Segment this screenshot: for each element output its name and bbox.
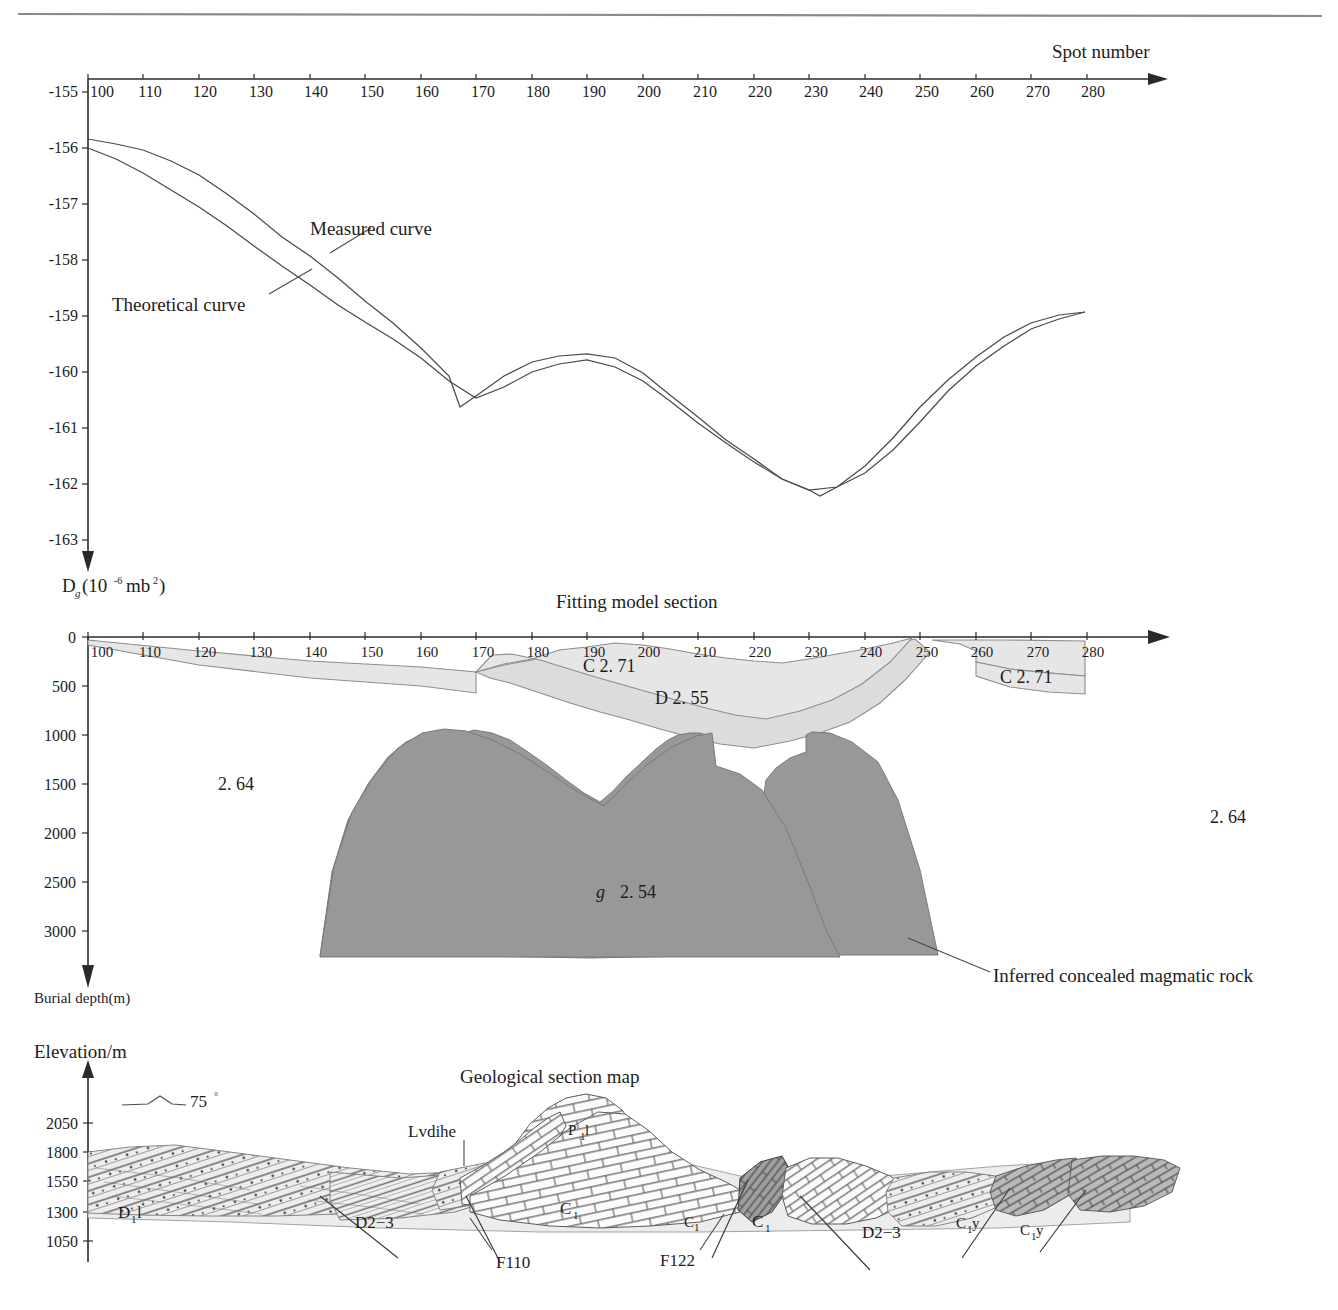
- chart1-xtick-5: 150: [360, 83, 384, 100]
- chart2-title: Fitting model section: [556, 591, 718, 612]
- chart1-xtick-13: 230: [804, 83, 828, 100]
- page-top-rule-group: [18, 0, 1322, 16]
- chart1-ytick-4: -159: [49, 307, 78, 324]
- chart1-ylabel-sub: g: [75, 587, 81, 599]
- chart1-y-tick-labels: -155 -156 -157 -158 -159 -160 -161 -162 …: [49, 83, 78, 548]
- chart1-x-tick-labels: 100 110 120 130 140 150 160 170 180 190 …: [90, 83, 1105, 100]
- chart1-xtick-2: 120: [193, 83, 217, 100]
- label-c1-right-sub: 1: [765, 1222, 771, 1234]
- chart2-xtick-18: 280: [1082, 644, 1105, 660]
- chart2-ylabel: Burial depth(m): [34, 990, 130, 1007]
- chart2-xtick-12: 220: [749, 644, 772, 660]
- chart1-ytick-6: -161: [49, 419, 78, 436]
- label-c1-right-base: C: [752, 1212, 763, 1231]
- label-p1l-base: P: [568, 1122, 576, 1138]
- chart2-xtick-0: 100: [91, 644, 114, 660]
- chart-geological-section: Elevation/m Geological section map 2050 …: [34, 1041, 1180, 1272]
- density-label-g-value: 2. 54: [620, 882, 656, 902]
- chart2-xtick-6: 160: [416, 644, 439, 660]
- measured-curve: [88, 139, 1085, 496]
- dip-symbol-group: 75 °: [122, 1091, 218, 1111]
- measured-curve-label: Measured curve: [310, 218, 432, 239]
- density-label-g-name: g: [596, 882, 605, 902]
- chart2-y-ticks: [82, 637, 88, 931]
- chart1-xtick-7: 170: [471, 83, 495, 100]
- chart1-ylabel-exp: -6: [114, 575, 122, 586]
- chart1-ytick-0: -155: [49, 83, 78, 100]
- chart1-y-axis-caption: D g (10 -6 mb 2 ): [62, 575, 165, 599]
- chart1-ytick-8: -163: [49, 531, 78, 548]
- label-p1l-suffix: l: [585, 1122, 589, 1138]
- chart2-ytick-6: 3000: [44, 923, 76, 940]
- label-d1l-sub: 1: [131, 1213, 137, 1225]
- density-label-host-right: 2. 64: [1210, 807, 1246, 827]
- label-c1-sliver-sub: 1: [694, 1221, 700, 1233]
- chart1-ytick-2: -157: [49, 195, 78, 212]
- chart2-xtick-5: 150: [361, 644, 384, 660]
- theoretical-curve-label: Theoretical curve: [112, 294, 245, 315]
- chart2-xtick-10: 200: [638, 644, 661, 660]
- chart1-y-ticks: [82, 92, 88, 540]
- chart3-ytick-4: 1050: [46, 1233, 78, 1250]
- chart1-ytick-7: -162: [49, 475, 78, 492]
- chart1-xtick-3: 130: [249, 83, 273, 100]
- chart2-xtick-2: 120: [194, 644, 217, 660]
- chart1-ylabel-unit-exp: 2: [153, 575, 158, 586]
- chart2-ytick-2: 1000: [44, 727, 76, 744]
- chart2-ytick-4: 2000: [44, 825, 76, 842]
- density-label-d: D 2. 55: [655, 688, 709, 708]
- chart-fitting-model-section: Fitting model section: [34, 591, 1254, 1007]
- dip-symbol-unit: °: [214, 1091, 218, 1102]
- chart1-xtick-9: 190: [582, 83, 606, 100]
- chart2-ytick-1: 500: [52, 678, 76, 695]
- label-d23-right: D2−3: [862, 1223, 901, 1242]
- chart2-xtick-16: 260: [971, 644, 994, 660]
- chart1-y-axis-arrowhead: [82, 551, 94, 572]
- label-d23-left: D2−3: [355, 1213, 394, 1232]
- label-c1y-a-suffix: y: [972, 1215, 980, 1231]
- chart2-xtick-17: 270: [1027, 644, 1050, 660]
- chart1-xlabel: Spot number: [1052, 41, 1150, 62]
- chart2-xtick-14: 240: [860, 644, 883, 660]
- label-c1-central-base: C: [560, 1199, 571, 1218]
- chart1-xtick-18: 280: [1081, 83, 1105, 100]
- chart1-x-axis-arrowhead: [1148, 73, 1168, 85]
- chart1-xtick-14: 240: [859, 83, 883, 100]
- figure-root: 100 110 120 130 140 150 160 170 180 190 …: [0, 0, 1338, 1310]
- magmatic-rock-annotation: Inferred concealed magmatic rock: [993, 965, 1254, 986]
- chart2-xtick-11: 210: [694, 644, 717, 660]
- chart1-xtick-15: 250: [915, 83, 939, 100]
- chart2-y-axis-arrowhead: [82, 965, 94, 988]
- chart1-xtick-17: 270: [1026, 83, 1050, 100]
- label-c1-central-sub: 1: [573, 1209, 579, 1221]
- chart2-xtick-8: 180: [527, 644, 550, 660]
- composite-figure: 100 110 120 130 140 150 160 170 180 190 …: [0, 0, 1338, 1310]
- chart3-ytick-3: 1300: [46, 1204, 78, 1221]
- label-c1y-b-base: C: [1020, 1222, 1030, 1238]
- chart1-xtick-10: 200: [637, 83, 661, 100]
- chart1-xtick-4: 140: [304, 83, 328, 100]
- magmatic-body-silhouette: [320, 729, 840, 957]
- chart1-ylabel-close: ): [159, 575, 165, 597]
- chart1-ytick-5: -160: [49, 363, 78, 380]
- chart1-xtick-1: 110: [138, 83, 161, 100]
- chart-gravity-curves: 100 110 120 130 140 150 160 170 180 190 …: [49, 41, 1168, 599]
- density-label-c-right: C 2. 71: [1000, 667, 1053, 687]
- chart2-y-tick-labels: 0 500 1000 1500 2000 2500 3000: [44, 629, 76, 940]
- chart1-xtick-16: 260: [970, 83, 994, 100]
- density-label-c-left: C 2. 71: [583, 656, 636, 676]
- label-c1-sliver-base: C: [684, 1214, 694, 1230]
- chart1-ytick-3: -158: [49, 251, 78, 268]
- chart1-xtick-6: 160: [415, 83, 439, 100]
- chart3-y-tick-labels: 2050 1800 1550 1300 1050: [46, 1115, 78, 1250]
- dip-symbol-value: 75: [190, 1092, 207, 1111]
- chart2-ytick-3: 1500: [44, 776, 76, 793]
- horizontal-rule: [18, 14, 1322, 16]
- chart3-title: Geological section map: [460, 1066, 639, 1087]
- chart1-xtick-12: 220: [748, 83, 772, 100]
- chart2-xtick-1: 110: [139, 644, 161, 660]
- label-c1y-a-base: C: [956, 1215, 966, 1231]
- label-f122: F122: [660, 1251, 695, 1270]
- chart3-ylabel: Elevation/m: [34, 1041, 127, 1062]
- chart1-ytick-1: -156: [49, 139, 78, 156]
